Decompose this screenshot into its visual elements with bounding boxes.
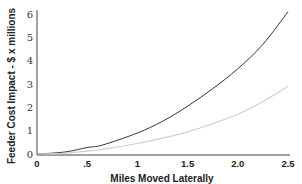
y-tick-label: 1 bbox=[27, 125, 33, 136]
x-tick-label: 2.0 bbox=[231, 158, 244, 169]
y-axis-ticks: 0123456 bbox=[27, 9, 33, 160]
x-tick-label: .5 bbox=[83, 158, 92, 169]
x-tick-label: 1.5 bbox=[181, 158, 195, 169]
series-lines bbox=[37, 12, 288, 154]
y-tick-label: 4 bbox=[27, 55, 33, 66]
x-tick-label: 2.5 bbox=[281, 158, 295, 169]
upper-cost-curve bbox=[37, 12, 288, 154]
x-tick-label: 0 bbox=[34, 158, 39, 169]
x-axis-label: Miles Moved Laterally bbox=[110, 173, 214, 184]
line-chart: 0123456 0.511.52.02.5 Miles Moved Latera… bbox=[0, 0, 302, 184]
y-tick-label: 2 bbox=[27, 102, 33, 113]
x-tick-label: 1 bbox=[135, 158, 141, 169]
y-tick-label: 5 bbox=[27, 32, 33, 43]
y-tick-label: 6 bbox=[27, 9, 33, 20]
x-axis-ticks: 0.511.52.02.5 bbox=[34, 158, 295, 169]
y-tick-label: 0 bbox=[27, 149, 33, 160]
lower-cost-curve bbox=[37, 86, 288, 154]
y-tick-label: 3 bbox=[27, 79, 33, 90]
y-axis-label: Feeder Cost Impact - $ x millions bbox=[6, 7, 17, 164]
